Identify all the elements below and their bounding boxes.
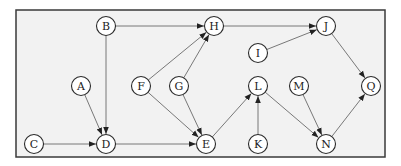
node-k: K	[249, 135, 268, 154]
node-i: I	[249, 44, 268, 63]
node-e: E	[197, 135, 216, 154]
node-label: J	[323, 20, 328, 33]
node-j: J	[317, 17, 336, 36]
node-d: D	[97, 135, 116, 154]
node-h: H	[205, 17, 224, 36]
node-label: B	[102, 20, 110, 33]
node-label: K	[254, 138, 263, 151]
node-label: H	[209, 20, 219, 33]
node-g: G	[170, 77, 189, 96]
node-label: F	[137, 80, 145, 93]
node-label: I	[256, 47, 260, 60]
node-label: N	[321, 138, 331, 151]
node-label: L	[254, 80, 262, 93]
dependency-graph: ABCDEFGHIJKLMNQ	[0, 0, 401, 166]
node-q: Q	[362, 77, 381, 96]
node-label: M	[293, 80, 304, 93]
node-c: C	[25, 135, 44, 154]
node-label: E	[202, 138, 210, 151]
node-m: M	[290, 77, 309, 96]
node-label: C	[30, 138, 38, 151]
node-f: F	[132, 77, 151, 96]
node-label: D	[102, 138, 111, 151]
node-label: A	[76, 80, 86, 93]
node-label: G	[175, 80, 184, 93]
node-label: Q	[366, 80, 375, 93]
node-n: N	[317, 135, 336, 154]
node-l: L	[249, 77, 268, 96]
node-b: B	[97, 17, 116, 36]
node-a: A	[72, 77, 91, 96]
